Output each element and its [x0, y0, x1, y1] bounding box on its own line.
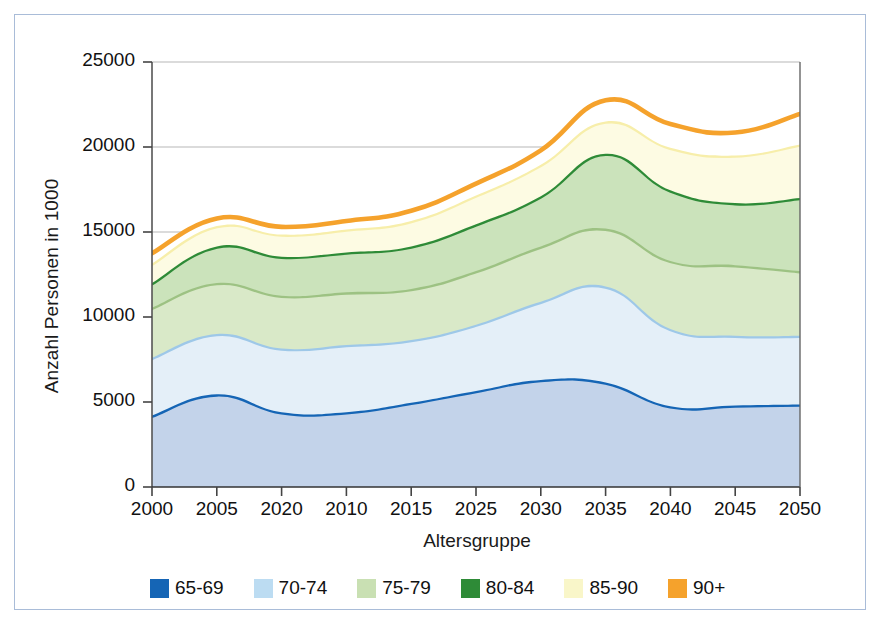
- x-axis-tick-label: 2025: [441, 498, 511, 520]
- chart-legend: 65-6970-7475-7980-8485-9090+: [150, 577, 755, 599]
- legend-item-80-84[interactable]: 80-84: [461, 577, 535, 599]
- y-axis-ticks: [143, 62, 152, 487]
- x-axis-title: Altersgruppe: [150, 530, 804, 552]
- legend-item-70-74[interactable]: 70-74: [254, 577, 328, 599]
- legend-swatch-icon: [461, 579, 480, 598]
- legend-item-85-90[interactable]: 85-90: [564, 577, 638, 599]
- x-axis-tick-label: 2010: [311, 498, 381, 520]
- legend-swatch-icon: [668, 579, 687, 598]
- x-axis-tick-label: 2015: [376, 498, 446, 520]
- x-axis-tick-label: 2050: [765, 498, 835, 520]
- legend-item-75-79[interactable]: 75-79: [357, 577, 431, 599]
- legend-label: 80-84: [486, 577, 535, 599]
- legend-label: 65-69: [175, 577, 224, 599]
- legend-item-90+[interactable]: 90+: [668, 577, 725, 599]
- legend-item-65-69[interactable]: 65-69: [150, 577, 224, 599]
- stacked-area-chart: 0500010000150002000025000 20002005202020…: [0, 0, 880, 624]
- x-axis-tick-label: 2030: [506, 498, 576, 520]
- legend-label: 90+: [693, 577, 725, 599]
- y-axis-title: Anzahl Personen in 1000: [41, 86, 63, 486]
- legend-swatch-icon: [150, 579, 169, 598]
- y-axis-tick-label: 25000: [25, 49, 135, 71]
- legend-swatch-icon: [564, 579, 583, 598]
- x-axis-tick-label: 2020: [247, 498, 317, 520]
- x-axis-tick-label: 2000: [117, 498, 187, 520]
- legend-label: 75-79: [382, 577, 431, 599]
- legend-label: 85-90: [589, 577, 638, 599]
- x-axis-tick-label: 2040: [635, 498, 705, 520]
- chart-figure: 0500010000150002000025000 20002005202020…: [0, 0, 880, 624]
- legend-swatch-icon: [254, 579, 273, 598]
- x-axis-tick-label: 2035: [571, 498, 641, 520]
- x-axis-ticks: [152, 487, 800, 496]
- x-axis-tick-label: 2045: [700, 498, 770, 520]
- legend-label: 70-74: [279, 577, 328, 599]
- legend-swatch-icon: [357, 579, 376, 598]
- x-axis-tick-label: 2005: [182, 498, 252, 520]
